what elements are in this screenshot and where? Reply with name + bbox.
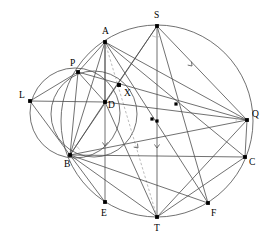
- label-B: B: [64, 159, 70, 169]
- segments-layer: [30, 26, 247, 217]
- circles-layer: [30, 25, 253, 217]
- point-D: [103, 100, 107, 104]
- label-E: E: [101, 208, 107, 218]
- point-S: [155, 24, 159, 28]
- tick-SQ: [188, 62, 192, 66]
- label-Q: Q: [252, 109, 259, 119]
- point-B: [68, 153, 72, 157]
- angle-marks-layer: [74, 36, 238, 150]
- seg-B-T: [70, 155, 157, 217]
- label-D: D: [108, 100, 115, 110]
- seg-Q-C: [245, 120, 247, 157]
- label-S: S: [154, 10, 159, 20]
- midpoint-pq: [174, 102, 177, 105]
- point-L: [28, 99, 32, 103]
- geometry-figure: ASPLDXQBCEFT: [0, 0, 274, 247]
- label-X: X: [124, 88, 131, 98]
- point-C: [243, 155, 247, 159]
- point-X: [117, 83, 121, 87]
- label-F: F: [211, 208, 216, 218]
- point-Q: [245, 118, 249, 122]
- point-A: [103, 40, 107, 44]
- label-C: C: [249, 157, 255, 167]
- dashed-segments-layer: [105, 42, 157, 217]
- seg-D-T: [105, 102, 157, 217]
- label-A: A: [102, 26, 109, 36]
- arrow-ticks-layer: [103, 62, 192, 148]
- midpoint-st: [155, 119, 158, 122]
- seg-T-Q: [157, 120, 247, 217]
- seg-L-B: [30, 101, 70, 155]
- label-T: T: [154, 223, 160, 233]
- seg-L-P: [30, 72, 78, 101]
- point-T: [155, 215, 159, 219]
- seg-P-Q: [78, 72, 247, 120]
- labels-layer: ASPLDXQBCEFT: [19, 10, 259, 233]
- midpoint-dq: [150, 117, 153, 120]
- label-P: P: [70, 58, 75, 68]
- seg-B-E: [70, 155, 105, 202]
- dashed-A-T: [105, 42, 157, 217]
- geometry-canvas: ASPLDXQBCEFT: [0, 0, 274, 247]
- point-F: [206, 201, 210, 205]
- label-L: L: [19, 90, 25, 100]
- seg-L-D: [30, 101, 105, 102]
- angle-at-S: [152, 36, 159, 37]
- point-E: [103, 200, 107, 204]
- point-P: [76, 70, 80, 74]
- angle-at-Q: [236, 114, 238, 122]
- seg-B-D: [70, 102, 105, 155]
- seg-A-P: [78, 42, 105, 72]
- seg-S-D: [105, 26, 157, 102]
- seg-B-F: [70, 155, 208, 203]
- seg-T-C: [157, 157, 245, 217]
